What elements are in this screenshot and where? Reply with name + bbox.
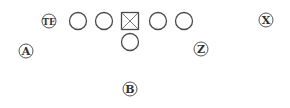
player-label: Z (197, 43, 205, 56)
skill-players: TEAZXB (19, 13, 273, 96)
player-label: X (262, 14, 271, 27)
lineman-circle-rt (176, 13, 193, 30)
offensive-line (70, 13, 193, 30)
quarterback-circle (122, 34, 139, 51)
lineman-circle-lg (96, 13, 113, 30)
player-z: Z (194, 42, 208, 56)
player-label: B (125, 83, 134, 96)
lineman-circle-lt (70, 13, 87, 30)
player-a: A (19, 44, 33, 58)
player-te: TE (42, 14, 56, 28)
player-label: A (21, 45, 31, 58)
lineman-circle-rg (150, 13, 167, 30)
player-label: TE (43, 16, 56, 27)
center-square-icon (122, 13, 139, 30)
quarterback (122, 34, 139, 51)
player-x: X (259, 13, 273, 27)
player-b: B (123, 82, 137, 96)
formation-diagram: TEAZXB (0, 0, 290, 108)
